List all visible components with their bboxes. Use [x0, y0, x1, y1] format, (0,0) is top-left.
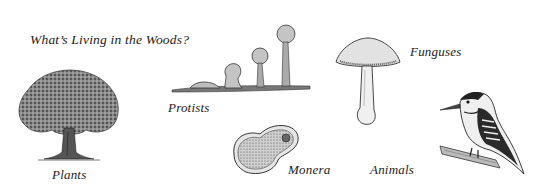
slime-mold-icon	[170, 22, 312, 94]
diagram-title: What’s Living in the Woods?	[30, 32, 189, 48]
mushroom-icon	[334, 36, 402, 128]
label-fungi: Funguses	[410, 44, 461, 60]
label-animals: Animals	[370, 162, 414, 178]
tree-icon	[14, 66, 124, 166]
woodpecker-icon	[434, 88, 530, 180]
label-protists: Protists	[168, 100, 210, 116]
label-monera: Monera	[288, 162, 330, 178]
kingdoms-diagram: What’s Living in the Woods? Plants Proti…	[0, 0, 534, 192]
label-plants: Plants	[52, 167, 86, 183]
